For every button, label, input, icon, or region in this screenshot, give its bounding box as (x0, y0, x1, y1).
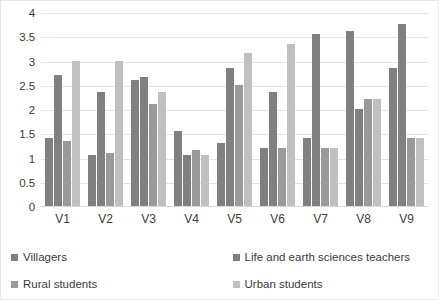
bar-group-v5 (213, 13, 256, 206)
bar (192, 150, 200, 206)
chart-legend: VillagersLife and earth sciences teacher… (1, 241, 439, 299)
bar (174, 131, 182, 206)
bar (287, 44, 295, 206)
legend-label: Life and earth sciences teachers (245, 251, 411, 263)
bar (260, 148, 268, 206)
legend-swatch-icon (233, 281, 240, 288)
bar (364, 99, 372, 206)
bar (97, 92, 105, 206)
bar (244, 53, 252, 206)
x-axis-tick-label: V8 (342, 208, 385, 230)
y-axis-tick-label: 2.5 (19, 80, 35, 92)
bar-group-v1 (41, 13, 84, 206)
bar (217, 143, 225, 206)
bar (398, 24, 406, 206)
bar (389, 68, 397, 206)
bar (88, 155, 96, 206)
bar-groups (41, 13, 428, 206)
y-axis: 00.511.522.533.54 (1, 1, 39, 233)
bar (72, 61, 80, 207)
bar-group-v9 (385, 13, 428, 206)
x-axis-tick-label: V5 (213, 208, 256, 230)
bar (330, 148, 338, 206)
bar (45, 138, 53, 206)
bar (149, 104, 157, 206)
bar (321, 148, 329, 206)
y-axis-tick-label: 3 (29, 56, 35, 68)
bar (269, 92, 277, 206)
legend-label: Urban students (245, 278, 323, 290)
x-axis-tick-label: V4 (170, 208, 213, 230)
bar (278, 148, 286, 206)
legend-item[interactable]: Life and earth sciences teachers (221, 245, 431, 269)
bar-group-v4 (170, 13, 213, 206)
bar (355, 109, 363, 206)
plot-area (41, 13, 428, 207)
bar (106, 153, 114, 206)
bar-group-v2 (84, 13, 127, 206)
bar (312, 34, 320, 206)
x-axis: V1V2V3V4V5V6V7V8V9 (41, 208, 428, 230)
legend-swatch-icon (233, 254, 240, 261)
bar-group-v3 (127, 13, 170, 206)
bar (63, 141, 71, 206)
plot-region: 00.511.522.533.54 V1V2V3V4V5V6V7V8V9 (1, 1, 439, 233)
x-axis-tick-label: V7 (299, 208, 342, 230)
bar (346, 31, 354, 206)
bar (416, 138, 424, 206)
bar-group-v6 (256, 13, 299, 206)
legend-swatch-icon (11, 281, 18, 288)
x-axis-tick-label: V9 (385, 208, 428, 230)
y-axis-tick-label: 0 (29, 201, 35, 213)
legend-item[interactable]: Villagers (11, 245, 221, 269)
bar (183, 155, 191, 206)
bar (226, 68, 234, 206)
bar (303, 138, 311, 206)
x-axis-tick-label: V1 (41, 208, 84, 230)
legend-label: Rural students (23, 278, 97, 290)
bar (201, 155, 209, 206)
y-axis-tick-label: 3.5 (19, 31, 35, 43)
bar (140, 77, 148, 206)
bar (235, 85, 243, 206)
legend-label: Villagers (23, 251, 67, 263)
y-axis-tick-label: 4 (29, 7, 35, 19)
y-axis-tick-label: 2 (29, 104, 35, 116)
bar-group-v8 (342, 13, 385, 206)
legend-item[interactable]: Rural students (11, 272, 221, 296)
y-axis-tick-label: 1.5 (19, 128, 35, 140)
bar-chart: 00.511.522.533.54 V1V2V3V4V5V6V7V8V9 Vil… (0, 0, 439, 300)
x-axis-tick-label: V6 (256, 208, 299, 230)
bar (373, 99, 381, 206)
bar (407, 138, 415, 206)
legend-item[interactable]: Urban students (221, 272, 431, 296)
legend-swatch-icon (11, 254, 18, 261)
y-axis-tick-label: 1 (29, 153, 35, 165)
y-axis-tick-label: 0.5 (19, 177, 35, 189)
bar (131, 80, 139, 206)
bar-group-v7 (299, 13, 342, 206)
bar (115, 61, 123, 207)
bar (158, 92, 166, 206)
x-axis-tick-label: V3 (127, 208, 170, 230)
bar (54, 75, 62, 206)
x-axis-tick-label: V2 (84, 208, 127, 230)
